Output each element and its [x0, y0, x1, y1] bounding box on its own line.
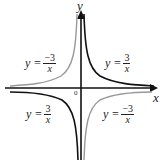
label-lhs: y = [25, 56, 41, 71]
fraction: −3x [121, 104, 134, 125]
curve-neg3-over-x-q4 [84, 92, 152, 160]
label-top-right: y = 3x [105, 53, 130, 74]
x-axis-label: x [153, 90, 159, 106]
label-lhs: y = [103, 107, 119, 122]
curve-neg3-over-x-q2 [10, 14, 77, 86]
label-top-left: y = −3x [25, 53, 56, 74]
origin-label: 0 [74, 89, 78, 97]
hyperbola-diagram [0, 0, 163, 160]
denominator: x [125, 64, 129, 74]
denominator: x [48, 64, 52, 74]
label-lhs: y = [105, 56, 121, 71]
fraction: 3x [123, 53, 130, 74]
fraction: 3x [44, 104, 51, 125]
curve-3-over-x-q3 [10, 92, 78, 160]
label-lhs: y = [26, 107, 42, 122]
denominator: x [46, 115, 50, 125]
denominator: x [126, 115, 130, 125]
fraction: −3x [43, 53, 56, 74]
label-bottom-left: y = 3x [26, 104, 51, 125]
y-axis-label: y [77, 0, 83, 14]
label-bottom-right: y = −3x [103, 104, 134, 125]
curve-3-over-x-q1 [84, 14, 154, 86]
